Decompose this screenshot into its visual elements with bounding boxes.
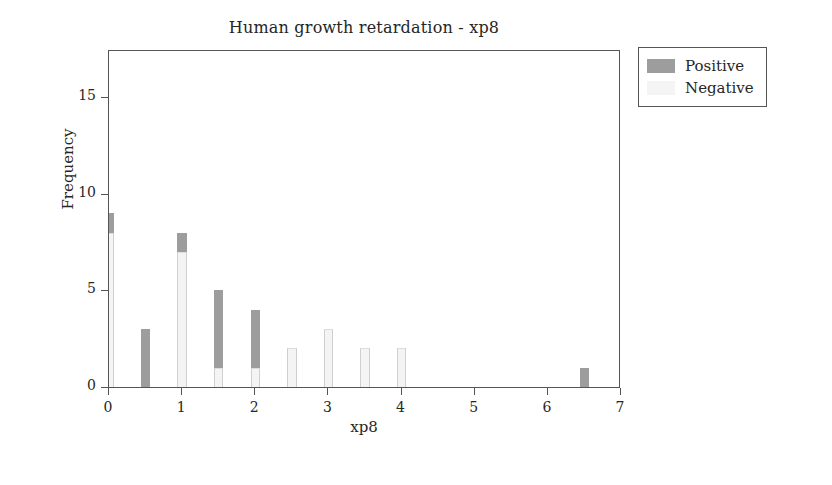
x-tick-mark xyxy=(401,388,402,395)
legend-swatch-negative xyxy=(647,81,675,95)
x-tick-label: 6 xyxy=(527,399,567,415)
chart-legend: PositiveNegative xyxy=(638,47,767,107)
y-tick-label: 15 xyxy=(78,87,96,103)
bar-segment-positive xyxy=(108,213,114,232)
legend-item: Negative xyxy=(647,77,754,99)
bar-segment-positive xyxy=(214,290,224,367)
x-tick-label: 4 xyxy=(381,399,421,415)
x-tick-mark xyxy=(181,388,182,395)
x-tick-label: 2 xyxy=(234,399,274,415)
bar-segment-positive xyxy=(141,329,151,387)
x-tick-mark xyxy=(108,388,109,395)
y-tick-label: 0 xyxy=(87,377,96,393)
x-tick-mark xyxy=(547,388,548,395)
x-tick-label: 5 xyxy=(454,399,494,415)
x-tick-mark xyxy=(254,388,255,395)
bar-segment-negative xyxy=(251,368,261,387)
y-axis-label: Frequency xyxy=(59,89,77,249)
x-tick-mark xyxy=(474,388,475,395)
legend-item: Positive xyxy=(647,55,754,77)
x-tick-label: 0 xyxy=(88,399,128,415)
x-axis-label: xp8 xyxy=(108,418,620,436)
legend-label: Positive xyxy=(685,57,744,75)
y-tick-mark xyxy=(101,290,108,291)
bar-segment-negative xyxy=(360,348,370,387)
bar-segment-positive xyxy=(177,233,187,252)
y-tick-mark xyxy=(101,387,108,388)
x-tick-label: 7 xyxy=(600,399,640,415)
x-tick-mark xyxy=(327,388,328,395)
y-tick-label: 10 xyxy=(78,184,96,200)
chart-title: Human growth retardation - xp8 xyxy=(108,18,620,37)
x-tick-label: 3 xyxy=(307,399,347,415)
bar-segment-negative xyxy=(177,252,187,387)
bar-segment-positive xyxy=(251,310,261,368)
y-tick-label: 5 xyxy=(87,280,96,296)
x-tick-label: 1 xyxy=(161,399,201,415)
bar-segment-positive xyxy=(580,368,590,387)
x-tick-mark xyxy=(620,388,621,395)
plot-area xyxy=(108,50,620,388)
bar-segment-negative xyxy=(214,368,224,387)
bar-segment-negative xyxy=(287,348,297,387)
bar-segment-negative xyxy=(324,329,334,387)
y-tick-mark xyxy=(101,97,108,98)
bars-layer xyxy=(109,51,619,387)
y-tick-mark xyxy=(101,194,108,195)
bar-segment-negative xyxy=(397,348,407,387)
legend-label: Negative xyxy=(685,79,754,97)
bar-segment-negative xyxy=(108,233,114,388)
legend-swatch-positive xyxy=(647,59,675,73)
chart-figure: Human growth retardation - xp8 Frequency… xyxy=(0,0,832,485)
